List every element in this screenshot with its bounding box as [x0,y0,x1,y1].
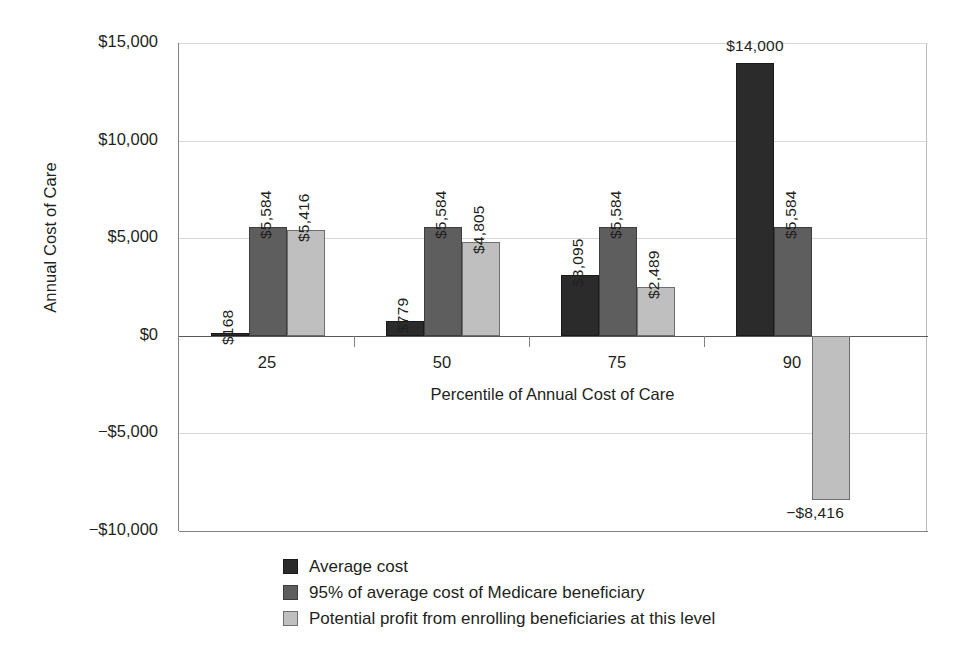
bar [287,230,325,336]
x-tick-mark [704,336,705,347]
bar [462,242,500,336]
bar-value-label: $4,805 [470,205,488,254]
y-tick-label: $5,000 [28,227,158,246]
legend-swatch-icon [283,611,298,626]
y-tick-label: −$10,000 [28,520,158,539]
y-tick-label: $15,000 [28,32,158,51]
legend-item: Average cost [283,553,715,579]
x-tick-label: 25 [227,353,307,372]
x-tick-label: 75 [577,353,657,372]
x-tick-mark [354,336,355,347]
gridline [179,531,928,532]
bar-value-label: $3,095 [569,239,587,288]
bar-value-label: $5,584 [607,190,625,239]
bar-value-label: $779 [394,297,412,332]
y-tick-label: −$5,000 [28,422,158,441]
plot-area: $168$779$3,095$14,000$5,584$5,584$5,584$… [178,43,927,531]
bar-value-label: $14,000 [714,37,796,55]
bar [599,227,637,336]
bar [774,227,812,336]
bar-value-label: $168 [219,309,237,344]
legend-item: 95% of average cost of Medicare benefici… [283,579,715,605]
chart-legend: Average cost95% of average cost of Medic… [283,553,715,631]
legend-label: 95% of average cost of Medicare benefici… [309,584,644,601]
bar [736,63,774,336]
x-tick-label: 90 [752,353,832,372]
legend-item: Potential profit from enrolling benefici… [283,605,715,631]
bar-value-label: $5,416 [295,193,313,242]
legend-swatch-icon [283,585,298,600]
y-tick-label: $0 [28,325,158,344]
gridline [179,141,928,142]
bar [424,227,462,336]
bar-value-label: $5,584 [432,190,450,239]
legend-swatch-icon [283,559,298,574]
bar-chart: Annual Cost of Care $15,000$10,000$5,000… [0,0,960,665]
x-tick-mark [529,336,530,347]
bar-value-label: $5,584 [257,190,275,239]
bar-value-label: −$8,416 [694,504,844,522]
y-tick-label: $10,000 [28,130,158,149]
bar-value-label: $2,489 [645,251,663,300]
legend-label: Average cost [309,558,408,575]
y-axis-ticks: $15,000$10,000$5,000$0−$5,000−$10,000 [28,0,158,665]
gridline [179,43,928,44]
bar [249,227,287,336]
legend-label: Potential profit from enrolling benefici… [309,610,715,627]
bar-value-label: $5,584 [782,190,800,239]
x-axis-title: Percentile of Annual Cost of Care [178,385,927,404]
x-tick-label: 50 [402,353,482,372]
